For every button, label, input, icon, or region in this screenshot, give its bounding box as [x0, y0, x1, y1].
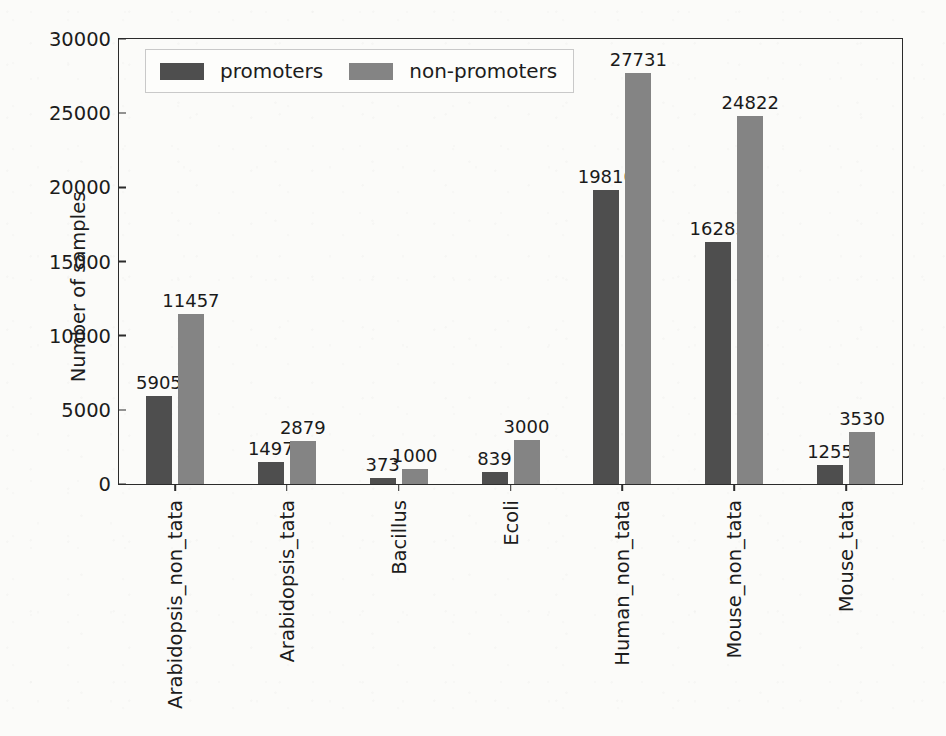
y-axis-tick-mark	[119, 409, 126, 411]
bar-arabidopsis_tata-promoters: 1497	[258, 462, 284, 484]
x-axis-tick-label: Arabidopsis_tata	[275, 500, 298, 662]
y-axis-tick: 0	[99, 473, 119, 496]
legend[interactable]: promotersnon-promoters	[145, 49, 574, 93]
legend-entry-non-promoters[interactable]: non-promoters	[349, 59, 557, 83]
bar-bacillus-non-promoters: 1000	[402, 469, 428, 484]
x-axis-tick-mark	[174, 484, 176, 491]
x-axis-tick-mark	[510, 484, 512, 491]
legend-label: non-promoters	[409, 59, 557, 83]
y-axis-tick-mark	[119, 112, 126, 114]
bar-mouse_tata-promoters: 1255	[817, 465, 843, 484]
x-axis-tick-label: Human_non_tata	[611, 500, 634, 666]
bar-human_non_tata-non-promoters: 27731	[625, 73, 651, 484]
bar-value-label: 3000	[504, 416, 550, 437]
bar-value-label: 5905	[136, 372, 182, 393]
plot-area: Number of samples 0500010000150002000025…	[118, 38, 903, 485]
x-axis-tick-label: Ecoli	[499, 500, 522, 546]
bar-bacillus-promoters: 373	[370, 478, 396, 484]
bar-arabidopsis_tata-non-promoters: 2879	[290, 441, 316, 484]
y-axis-tick-mark	[119, 261, 126, 263]
legend-label: promoters	[220, 59, 323, 83]
y-axis-tick: 15000	[49, 250, 119, 273]
y-axis-tick-label: 5000	[61, 398, 119, 421]
legend-swatch-icon	[160, 63, 204, 80]
bar-value-label: 1497	[248, 438, 294, 459]
x-axis-tick-label: Bacillus	[387, 500, 410, 575]
x-axis-tick-mark	[733, 484, 735, 491]
bar-human_non_tata-promoters: 19810	[593, 190, 619, 484]
y-axis-tick-label: 25000	[49, 102, 119, 125]
bar-arabidopsis_non_tata-non-promoters: 11457	[178, 314, 204, 484]
bar-ecoli-non-promoters: 3000	[514, 440, 540, 485]
bar-value-label: 839	[477, 448, 511, 469]
y-axis-tick: 5000	[61, 398, 119, 421]
y-axis-tick-label: 10000	[49, 324, 119, 347]
y-axis-tick: 30000	[49, 28, 119, 51]
x-axis-tick-mark	[845, 484, 847, 491]
legend-entry-promoters[interactable]: promoters	[160, 59, 323, 83]
bar-value-label: 2879	[280, 417, 326, 438]
bar-mouse_non_tata-non-promoters: 24822	[737, 116, 763, 484]
y-axis-tick-mark	[119, 335, 126, 337]
y-axis-tick-mark	[119, 483, 126, 485]
x-axis-tick-mark	[286, 484, 288, 491]
y-axis-tick-label: 30000	[49, 28, 119, 51]
y-axis-tick: 25000	[49, 102, 119, 125]
bar-mouse_tata-non-promoters: 3530	[849, 432, 875, 484]
bar-arabidopsis_non_tata-promoters: 5905	[146, 396, 172, 484]
y-axis-tick-label: 20000	[49, 176, 119, 199]
x-axis-tick-label: Arabidopsis_non_tata	[163, 500, 186, 709]
bar-ecoli-promoters: 839	[482, 472, 508, 484]
y-axis-tick-mark	[119, 187, 126, 189]
bar-value-label: 1255	[807, 441, 853, 462]
x-axis-tick-mark	[622, 484, 624, 491]
y-axis-tick: 10000	[49, 324, 119, 347]
bar-value-label: 1000	[392, 445, 438, 466]
chart-page: Number of samples 0500010000150002000025…	[0, 0, 946, 736]
y-axis-tick: 20000	[49, 176, 119, 199]
legend-swatch-icon	[349, 63, 393, 80]
x-axis-tick-label: Mouse_non_tata	[723, 500, 746, 659]
bar-value-label: 27731	[610, 49, 667, 70]
y-axis-tick-mark	[119, 38, 126, 40]
y-axis-tick-label: 15000	[49, 250, 119, 273]
bar-value-label: 24822	[722, 92, 779, 113]
bar-mouse_non_tata-promoters: 16283	[705, 242, 731, 484]
bar-value-label: 3530	[839, 408, 885, 429]
x-axis-tick-label: Mouse_tata	[835, 500, 858, 612]
x-axis-tick-mark	[398, 484, 400, 491]
bar-value-label: 11457	[162, 290, 219, 311]
y-axis-tick-label: 0	[99, 473, 119, 496]
